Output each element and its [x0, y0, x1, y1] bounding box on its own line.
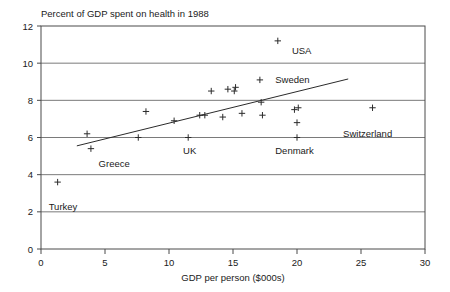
y-tick-label: 10	[22, 58, 33, 69]
x-tick-label: 10	[164, 257, 175, 268]
y-tick-label: 2	[28, 206, 33, 217]
x-tick-label: 5	[102, 257, 107, 268]
y-tick-label: 6	[28, 132, 33, 143]
x-axis-title: GDP per person ($000s)	[181, 272, 284, 283]
x-tick-label: 0	[38, 257, 43, 268]
x-tick-label: 25	[356, 257, 367, 268]
y-tick-label: 4	[28, 169, 33, 180]
scatter-plot-svg: Percent of GDP spent on health in 1988 0…	[0, 0, 450, 292]
chart-title: Percent of GDP spent on health in 1988	[41, 8, 209, 19]
point-label-sweden: Sweden	[275, 74, 309, 85]
point-label-usa: USA	[292, 45, 312, 56]
y-tick-label: 8	[28, 95, 33, 106]
point-label-greece: Greece	[99, 158, 130, 169]
point-label-turkey: Turkey	[49, 201, 78, 212]
point-label-switzerland: Switzerland	[343, 128, 392, 139]
point-label-denmark: Denmark	[275, 145, 314, 156]
x-tick-label: 30	[420, 257, 431, 268]
chart-container: Percent of GDP spent on health in 1988 0…	[0, 0, 450, 292]
y-tick-label: 12	[22, 21, 33, 32]
x-tick-label: 15	[228, 257, 239, 268]
point-label-uk: UK	[183, 145, 197, 156]
x-tick-label: 20	[292, 257, 303, 268]
chart-background	[0, 0, 450, 292]
y-tick-label: 0	[28, 244, 33, 255]
